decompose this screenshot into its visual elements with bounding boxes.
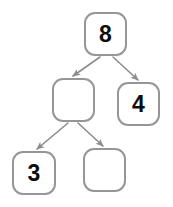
edge-mid-left-to-bottom-right — [78, 123, 103, 146]
edge-mid-left-to-bottom-left — [37, 123, 68, 149]
node-bottom-right[interactable] — [83, 148, 126, 192]
node-mid-right-label: 4 — [132, 93, 145, 116]
edge-root-to-mid-left — [73, 57, 100, 76]
node-mid-right[interactable]: 4 — [117, 82, 160, 126]
node-root[interactable]: 8 — [84, 12, 127, 56]
edge-root-to-mid-right — [113, 57, 138, 80]
node-bottom-left-label: 3 — [28, 162, 41, 185]
node-mid-left[interactable] — [52, 78, 95, 122]
node-bottom-left[interactable]: 3 — [12, 151, 56, 195]
tree-diagram-canvas: 8 4 3 — [0, 0, 173, 207]
node-root-label: 8 — [99, 23, 112, 46]
